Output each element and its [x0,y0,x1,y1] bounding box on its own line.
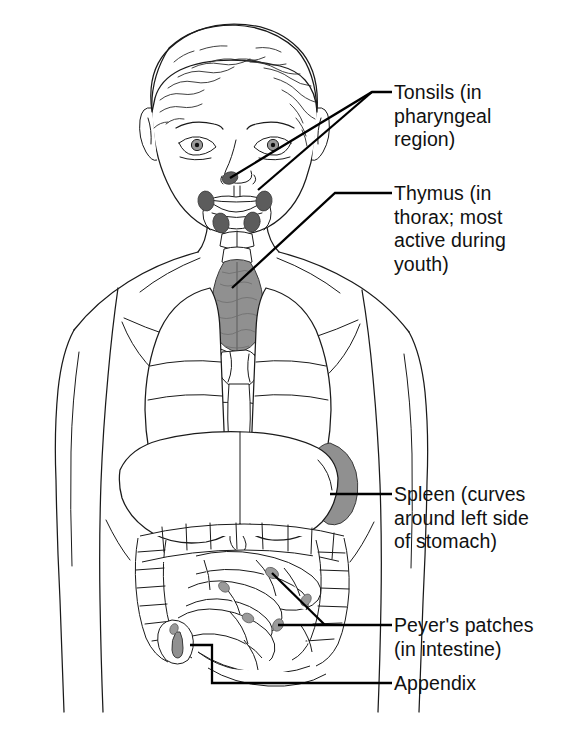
figure-canvas: .ln{fill:none;stroke:#1a1a1a;stroke-widt… [0,0,580,738]
label-thymus: Thymus (in thorax; most active during yo… [394,182,506,276]
head-and-face [140,24,330,235]
label-tonsils: Tonsils (in pharyngeal region) [394,81,492,152]
label-appendix: Appendix [394,672,476,696]
label-peyers-patches: Peyer's patches (in intestine) [394,614,534,661]
label-spleen: Spleen (curves around left side of stoma… [394,483,529,554]
